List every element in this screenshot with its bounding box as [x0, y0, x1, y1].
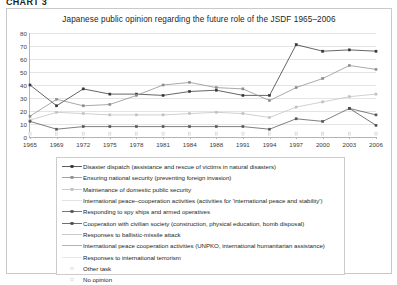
series-marker [322, 101, 324, 103]
x-axis-tick-label: 1969 [50, 141, 64, 148]
series-marker [162, 114, 164, 116]
x-axis-tick-label: 1978 [130, 141, 144, 148]
series-marker [375, 114, 377, 116]
series-marker [295, 106, 297, 108]
series-marker [135, 114, 137, 116]
legend-item[interactable]: International peace cooperation activiti… [61, 240, 340, 251]
legend-item-label: Maintenance of domestic public security [83, 184, 191, 195]
legend-marker-icon [61, 195, 83, 206]
x-axis-tick-label: 1975 [103, 141, 117, 148]
series-marker [242, 94, 244, 96]
series-line [30, 94, 376, 120]
series-marker [215, 133, 217, 135]
legend-item[interactable]: Maintenance of domestic public security [61, 184, 340, 195]
series-marker [322, 120, 324, 122]
legend-item[interactable]: Responding to spy ships and armed operat… [61, 206, 340, 217]
series-marker [189, 90, 191, 92]
series-marker [189, 113, 191, 115]
x-axis-tick-mark [323, 137, 324, 139]
plot-wrapper: 01020304050607080 1965196919721975197819… [7, 31, 393, 153]
series-marker [322, 77, 324, 79]
series-marker [348, 107, 350, 109]
legend-item-label: Responses to international terrorism [83, 252, 181, 263]
series-marker [135, 133, 137, 135]
series-marker [215, 89, 217, 91]
series-marker [242, 88, 244, 90]
series-marker [135, 126, 137, 128]
legend-item[interactable]: No opinion [61, 274, 340, 285]
series-marker [162, 94, 164, 96]
legend-marker-icon [61, 274, 83, 285]
series-marker [29, 120, 31, 122]
x-axis-tick-mark [110, 137, 111, 139]
x-axis-tick-label: 2000 [316, 141, 330, 148]
plot-area: 01020304050607080 1965196919721975197819… [29, 33, 376, 138]
series-marker [29, 133, 31, 135]
legend-marker-icon [61, 184, 83, 195]
x-axis-tick-label: 1994 [263, 141, 277, 148]
legend-item[interactable]: Other task [61, 263, 340, 274]
legend-item[interactable]: Disaster dispatch (assistance and rescue… [61, 161, 340, 172]
series-marker [162, 126, 164, 128]
series-line [30, 108, 376, 129]
series-marker [268, 133, 270, 135]
data-series-layer [30, 33, 376, 137]
x-axis-tick-mark [349, 137, 350, 139]
legend-item[interactable]: Ensuring national security (preventing f… [61, 172, 340, 183]
series-marker [162, 84, 164, 86]
series-marker [56, 111, 58, 113]
y-axis-tick-label: 20 [20, 108, 27, 115]
legend-item[interactable]: International peace–cooperation activiti… [61, 195, 340, 206]
figure-container: Japanese public opinion regarding the fu… [6, 8, 392, 274]
legend-item-label: Ensuring national security (preventing f… [83, 172, 231, 183]
series-marker [162, 133, 164, 135]
series-marker [322, 133, 324, 135]
series-marker [215, 87, 217, 89]
series-marker [375, 50, 377, 52]
series-marker [82, 88, 84, 90]
series-marker [322, 50, 324, 52]
legend-item[interactable]: Responses to international terrorism [61, 251, 340, 262]
series-marker [375, 124, 377, 126]
legend-item-label: Responses to ballistic-missile attack [83, 229, 181, 240]
legend-marker-icon [61, 240, 83, 251]
legend-marker-icon [61, 206, 83, 217]
x-axis-tick-label: 1991 [236, 141, 250, 148]
x-axis-tick-label: 1965 [23, 141, 37, 148]
series-marker [56, 98, 58, 100]
series-marker [29, 115, 31, 117]
x-axis-tick-mark [376, 137, 377, 139]
x-axis-tick-mark [136, 137, 137, 139]
series-marker [268, 100, 270, 102]
x-axis-tick-mark [296, 137, 297, 139]
y-axis-tick-label: 0 [24, 134, 27, 141]
legend-item[interactable]: Cooperation with civilian society (const… [61, 217, 340, 228]
y-axis-tick-label: 70 [20, 43, 27, 50]
series-marker [56, 128, 58, 130]
series-marker [348, 49, 350, 51]
x-axis-tick-label: 1997 [289, 141, 303, 148]
series-marker [189, 133, 191, 135]
legend-marker-icon [61, 263, 83, 274]
legend-item-label: International peace cooperation activiti… [83, 240, 325, 251]
series-marker [348, 96, 350, 98]
series-marker [295, 118, 297, 120]
legend-item[interactable]: Responses to ballistic-missile attack [61, 229, 340, 240]
series-marker [109, 103, 111, 105]
x-axis-tick-mark [190, 137, 191, 139]
series-marker [295, 87, 297, 89]
series-marker [82, 126, 84, 128]
chart-title: Japanese public opinion regarding the fu… [7, 15, 391, 24]
x-axis-tick-label: 2003 [342, 141, 356, 148]
series-marker [295, 133, 297, 135]
series-marker [242, 113, 244, 115]
legend-marker-icon [61, 218, 83, 229]
series-line [30, 45, 376, 106]
legend-item-label: No opinion [83, 274, 112, 285]
series-marker [375, 68, 377, 70]
series-line [349, 108, 376, 125]
x-axis-tick-mark [57, 137, 58, 139]
legend-item-label: Other task [83, 263, 111, 274]
series-marker [109, 93, 111, 95]
legend-marker-icon [61, 161, 83, 172]
